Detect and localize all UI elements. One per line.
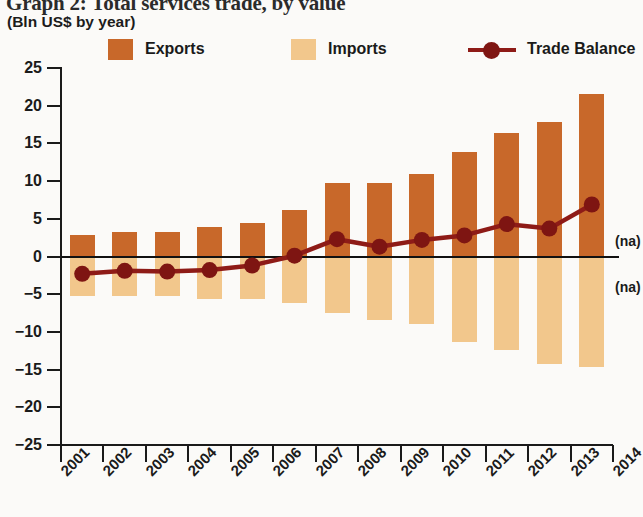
x-axis-label: 2010 [439, 443, 475, 479]
na-annotation: (na) [615, 233, 641, 249]
x-axis-tick [230, 445, 232, 462]
y-axis-tick [47, 105, 61, 107]
x-axis-tick [400, 445, 402, 462]
y-axis-label: −15 [0, 361, 42, 379]
x-axis-tick [570, 445, 572, 462]
x-axis-tick [315, 445, 317, 462]
zero-baseline [61, 256, 619, 258]
x-axis-tick [485, 445, 487, 462]
y-axis-tick [47, 406, 61, 408]
x-axis-tick [187, 445, 189, 462]
bar-exports [452, 152, 477, 257]
y-axis-label: 0 [0, 248, 42, 266]
bar-imports [452, 257, 477, 343]
x-axis-label: 2003 [142, 443, 178, 479]
x-axis-tick [145, 445, 147, 462]
x-axis-tick [272, 445, 274, 462]
y-axis-tick [47, 444, 61, 446]
x-axis-label: 2012 [524, 443, 560, 479]
x-axis-label: 2006 [269, 443, 305, 479]
y-axis-tick [47, 369, 61, 371]
y-axis-label: 25 [0, 59, 42, 77]
bar-exports [197, 227, 222, 256]
bar-imports [537, 257, 562, 365]
x-axis-label: 2001 [57, 443, 93, 479]
bar-imports [282, 257, 307, 304]
x-axis-tick [102, 445, 104, 462]
bar-imports [325, 257, 350, 314]
y-axis-label: 10 [0, 172, 42, 190]
y-axis-tick [47, 256, 61, 258]
bar-imports [112, 257, 137, 297]
x-axis-tick [442, 445, 444, 462]
x-axis-tick [60, 445, 62, 462]
bar-exports [240, 223, 265, 256]
x-axis-label: 2007 [312, 443, 348, 479]
bar-exports [155, 232, 180, 257]
y-axis-label: −25 [0, 436, 42, 454]
bar-exports [70, 235, 95, 257]
bar-exports [325, 183, 350, 257]
y-axis-tick [47, 331, 61, 333]
y-axis-tick [47, 180, 61, 182]
y-axis-tick [47, 218, 61, 220]
bar-imports [367, 257, 392, 320]
bar-imports [494, 257, 519, 350]
chart-page: Graph 2: Total services trade, by value … [0, 0, 643, 517]
y-axis-label: −10 [0, 323, 42, 341]
y-axis-label: 20 [0, 97, 42, 115]
na-annotation: (na) [615, 279, 641, 295]
x-axis-label: 2004 [184, 443, 220, 479]
bar-imports [197, 257, 222, 299]
y-axis-tick [47, 142, 61, 144]
bar-imports [579, 257, 604, 367]
bar-imports [70, 257, 95, 296]
y-axis-label: −5 [0, 285, 42, 303]
x-axis-label: 2002 [99, 443, 135, 479]
x-axis-tick [527, 445, 529, 462]
bar-exports [537, 122, 562, 257]
x-axis-label: 2013 [567, 443, 603, 479]
x-axis-label: 2009 [397, 443, 433, 479]
x-axis-label: 2011 [482, 444, 517, 479]
bar-exports [409, 174, 434, 256]
bar-imports [240, 257, 265, 299]
y-axis-label: −20 [0, 398, 42, 416]
bar-imports [155, 257, 180, 297]
bar-exports [579, 94, 604, 256]
y-axis-label: 5 [0, 210, 42, 228]
y-axis-tick [47, 67, 61, 69]
y-axis-label: 15 [0, 134, 42, 152]
x-axis-tick [612, 445, 614, 462]
bar-exports [367, 183, 392, 257]
bar-imports [409, 257, 434, 325]
bar-exports [112, 232, 137, 256]
x-axis-label: 2005 [227, 443, 263, 479]
x-axis-label: 2014 [609, 443, 643, 479]
y-axis-tick [47, 293, 61, 295]
bar-exports [494, 133, 519, 257]
x-axis-label: 2008 [354, 443, 390, 479]
bar-exports [282, 210, 307, 257]
x-axis-tick [357, 445, 359, 462]
plot-area: 2520151050−5−10−15−20−252001200220032004… [0, 0, 643, 517]
